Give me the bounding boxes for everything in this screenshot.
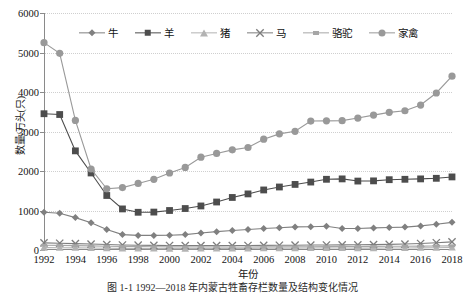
series-layer: [44, 13, 452, 250]
x-tick-label: 2012: [347, 254, 368, 265]
x-tick-label: 2002: [190, 254, 211, 265]
series-牛: [41, 209, 456, 239]
x-tick-label: 1996: [96, 254, 117, 265]
x-tick-label: 2000: [159, 254, 180, 265]
x-tick-label: 2004: [222, 254, 243, 265]
y-tick-label: 5000: [18, 47, 39, 58]
x-tick-label: 2016: [410, 254, 431, 265]
y-tick-label: 6000: [18, 8, 39, 19]
plot-area: 0100020003000400050006000 19921994199619…: [44, 13, 452, 250]
y-tick-label: 4000: [18, 87, 39, 98]
x-tick-label: 1998: [128, 254, 149, 265]
x-tick-label: 2010: [316, 254, 337, 265]
series-羊: [41, 110, 456, 215]
x-tick-label: 1994: [65, 254, 86, 265]
x-tick-label: 2014: [379, 254, 400, 265]
series-家禽: [40, 39, 455, 192]
y-tick-label: 2000: [18, 166, 39, 177]
y-tick-label: 3000: [18, 126, 39, 137]
x-tick-label: 2008: [285, 254, 306, 265]
x-tick-label: 2006: [253, 254, 274, 265]
y-tick-label: 1000: [18, 205, 39, 216]
x-tick-label: 1992: [34, 254, 55, 265]
figure-caption: 图 1-1 1992—2018 年内蒙古牲畜存栏数量及结构变化情况: [0, 279, 465, 294]
x-tick-label: 2018: [442, 254, 463, 265]
